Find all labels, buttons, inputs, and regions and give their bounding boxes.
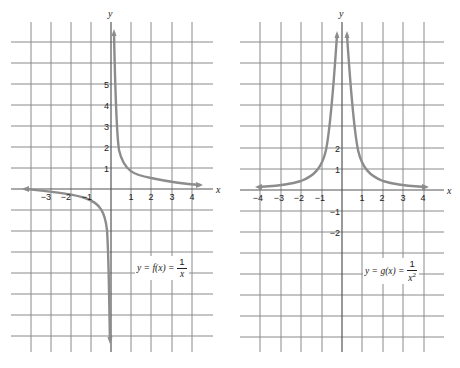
right-ytick: −2 [330,228,340,238]
left-xtick: 3 [169,192,174,202]
right-xtick: 2 [379,193,384,203]
left-curve-negative [25,189,110,340]
right-arrow-up-left-icon [335,31,340,38]
right-arrow-right-icon [422,184,429,190]
left-arrow-left-icon [22,186,29,192]
right-xtick: 4 [420,193,425,203]
left-x-label: x [215,184,221,195]
right-arrow-up-right-icon [345,31,350,38]
left-grid [11,22,213,352]
right-arrow-left-icon [255,184,262,190]
left-ytick: 3 [104,122,109,132]
left-curve-positive [114,33,200,185]
left-xtick: −1 [82,192,92,202]
left-ytick: 2 [104,143,109,153]
left-arrow-right-icon [196,182,203,188]
right-ytick: 2 [335,144,340,154]
left-xtick: 1 [128,192,133,202]
right-curve-positive [347,35,425,187]
right-xtick: 3 [400,193,405,203]
right-y-label: y [338,8,344,19]
left-graph: y x −3 −2 −1 1 2 3 4 1 2 3 4 5 [11,8,221,352]
left-ytick: 4 [104,101,109,111]
left-xtick: 4 [189,192,194,202]
left-equation-denominator: x [180,269,184,280]
left-xtick: 2 [148,192,153,202]
left-xtick: −2 [61,192,71,202]
right-xtick: −1 [315,193,325,203]
left-y-label: y [107,8,113,19]
right-ytick: 1 [335,165,340,175]
left-xtick: −3 [41,192,51,202]
graphs-canvas: y x −3 −2 −1 1 2 3 4 1 2 3 4 5 [0,0,460,368]
right-equation-fraction: 1 x2 [407,259,416,283]
left-equation: y = f(x) = 1 x [135,256,189,280]
left-arrow-down-icon [108,337,113,344]
right-x-label: x [446,185,452,196]
right-equation-numerator: 1 [407,259,416,271]
right-curve-negative [259,35,337,187]
left-equation-fraction: 1 x [177,257,186,279]
right-xtick: −3 [274,193,284,203]
left-equation-numerator: 1 [177,257,186,269]
right-graph: y x −4 −3 −2 −1 1 2 3 4 2 1 −1 −2 [240,8,452,352]
left-arrow-up-icon [112,29,117,36]
right-equation-denominator-wrap: x2 [408,271,416,284]
right-xtick: −4 [253,193,263,203]
right-xtick: 1 [359,193,364,203]
right-equation-lhs: y = g(x) = [365,266,404,276]
left-ytick: 5 [104,80,109,90]
right-equation: y = g(x) = 1 x2 [363,258,419,284]
right-equation-exponent: 2 [412,271,416,279]
right-ytick: −1 [330,207,340,217]
right-xtick: −2 [294,193,304,203]
left-equation-lhs: y = f(x) = [137,263,174,273]
left-ytick: 1 [104,164,109,174]
